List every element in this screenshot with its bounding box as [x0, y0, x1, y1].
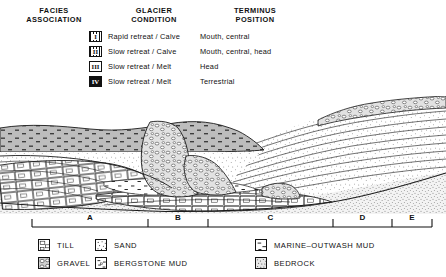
facies-interval-scale-bar: A B C D E: [0, 212, 446, 232]
legend-item-till: TILL: [0, 239, 95, 251]
facies-symbol-label: I: [93, 34, 98, 41]
legend-item-marine-outwash-mud: MARINE–OUTWASH MUD: [255, 239, 445, 251]
legend-item-bergstone-mud: BERGSTONE MUD: [95, 257, 255, 269]
header-line-1: GLACIER: [108, 6, 200, 15]
legend-label: SAND: [114, 241, 137, 250]
facies-row: II Slow retreat / Calve Mouth, central, …: [0, 44, 446, 59]
glacier-condition-cell: Slow retreat / Calve: [108, 47, 200, 56]
till-pattern-icon: [38, 239, 50, 251]
header-facies-association: FACIES ASSOCIATION: [0, 6, 108, 24]
facies-symbol-label: II: [92, 49, 99, 56]
facies-table-header: FACIES ASSOCIATION GLACIER CONDITION TER…: [0, 6, 446, 24]
lithology-legend: TILL SAND: [0, 236, 446, 272]
scale-segment-label-e: E: [392, 213, 432, 222]
unit-marine-outwash-mud: [0, 122, 264, 152]
terminus-position-cell: Head: [200, 62, 330, 71]
legend-item-sand: SAND: [95, 239, 255, 251]
facies-symbol-label: IV: [92, 79, 100, 86]
terminus-position-cell: Mouth, central, head: [200, 47, 330, 56]
bedrock-pattern-icon: [255, 257, 267, 269]
facies-symbol-box-ii: II: [89, 46, 102, 57]
facies-symbol-box-iv: IV: [89, 76, 102, 87]
header-glacier-condition: GLACIER CONDITION: [108, 6, 200, 24]
facies-association-table: FACIES ASSOCIATION GLACIER CONDITION TER…: [0, 6, 446, 89]
legend-label: GRAVEL: [57, 259, 90, 268]
scale-segment-label-b: B: [148, 213, 208, 222]
legend-item-gravel: GRAVEL: [0, 257, 95, 269]
header-line-1: TERMINUS: [200, 6, 310, 15]
legend-row: TILL SAND: [0, 236, 446, 254]
facies-row: III Slow retreat / Melt Head: [0, 59, 446, 74]
facies-symbol-box-i: I: [89, 31, 102, 42]
figure-root: FACIES ASSOCIATION GLACIER CONDITION TER…: [0, 0, 446, 277]
header-line-1: FACIES: [0, 6, 108, 15]
glacier-condition-cell: Slow retreat / Melt: [108, 77, 200, 86]
legend-label: BEDROCK: [274, 259, 315, 268]
legend-label: TILL: [57, 241, 74, 250]
marine-outwash-mud-pattern-icon: [255, 239, 267, 251]
facies-symbol-cell: III: [0, 61, 108, 72]
header-line-2: CONDITION: [108, 15, 200, 24]
facies-row: I Rapid retreat / Calve Mouth, central: [0, 29, 446, 44]
header-line-2: ASSOCIATION: [0, 15, 108, 24]
sand-pattern-icon: [95, 239, 107, 251]
facies-symbol-box-iii: III: [89, 61, 102, 72]
terminus-position-cell: Mouth, central: [200, 32, 330, 41]
scale-segment-label-c: C: [208, 213, 333, 222]
bergstone-mud-pattern-icon: [95, 257, 107, 269]
glacier-condition-cell: Rapid retreat / Calve: [108, 32, 200, 41]
legend-label: BERGSTONE MUD: [114, 259, 187, 268]
facies-symbol-cell: I: [0, 31, 108, 42]
legend-row: GRAVEL BERGSTONE MUD: [0, 254, 446, 272]
glacier-condition-cell: Slow retreat / Melt: [108, 62, 200, 71]
facies-row: IV Slow retreat / Melt Terrestrial: [0, 74, 446, 89]
terminus-position-cell: Terrestrial: [200, 77, 330, 86]
scale-segment-label-a: A: [32, 213, 148, 222]
legend-label: MARINE–OUTWASH MUD: [274, 241, 375, 250]
gravel-pattern-icon: [38, 257, 50, 269]
header-terminus-position: TERMINUS POSITION: [200, 6, 310, 24]
facies-symbol-cell: II: [0, 46, 108, 57]
stratigraphic-cross-section: [0, 96, 446, 214]
legend-item-bedrock: BEDROCK: [255, 257, 445, 269]
header-line-2: POSITION: [200, 15, 310, 24]
facies-symbol-cell: IV: [0, 76, 108, 87]
facies-symbol-label: III: [92, 64, 100, 71]
scale-segment-label-d: D: [333, 213, 392, 222]
